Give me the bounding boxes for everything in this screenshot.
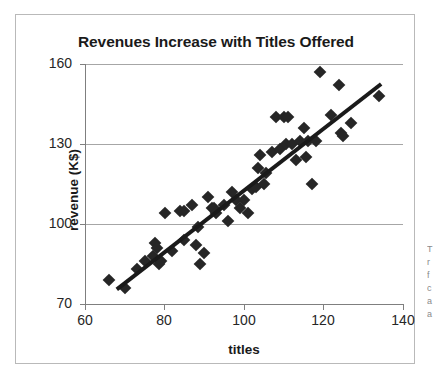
trend-line xyxy=(85,64,403,305)
y-tick-label-160: 160 xyxy=(49,55,72,71)
page-canvas: Revenues Increase with Titles Offered 16… xyxy=(0,0,442,381)
x-tick-60 xyxy=(85,305,86,310)
chart-frame: Revenues Increase with Titles Offered 16… xyxy=(15,14,415,364)
x-tick-100 xyxy=(244,305,245,310)
x-tick-label-80: 80 xyxy=(144,312,184,328)
x-tick-140 xyxy=(403,305,404,310)
margin-text-line: f xyxy=(427,269,442,282)
plot-area: 160 130 100 70 60 80 100 120 140 revenue… xyxy=(85,64,403,304)
margin-text-line: a xyxy=(427,308,442,321)
margin-text-line: c xyxy=(427,282,442,295)
x-tick-80 xyxy=(164,305,165,310)
x-tick-label-100: 100 xyxy=(224,312,264,328)
x-tick-label-140: 140 xyxy=(383,312,423,328)
margin-text-line: r xyxy=(427,256,442,269)
x-axis-title: titles xyxy=(85,342,403,357)
x-tick-label-120: 120 xyxy=(303,312,343,328)
x-tick-label-60: 60 xyxy=(65,312,105,328)
margin-text-line: a xyxy=(427,295,442,308)
chart-title: Revenues Increase with Titles Offered xyxy=(16,33,416,51)
margin-text-line: T xyxy=(427,243,442,256)
y-tick-label-70: 70 xyxy=(56,295,72,311)
clipped-margin-text: Trfcaa xyxy=(427,243,442,321)
y-axis-title: revenue (K$) xyxy=(66,149,81,231)
x-tick-120 xyxy=(323,305,324,310)
